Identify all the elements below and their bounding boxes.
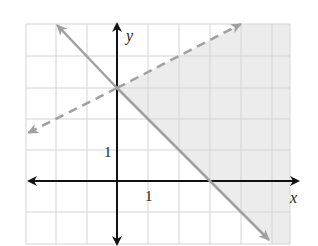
y-tick-label: 1 <box>104 144 112 160</box>
x-tick-label: 1 <box>145 188 153 204</box>
x-axis-label: x <box>289 189 297 206</box>
inequality-graph: y x 1 1 <box>0 0 318 246</box>
dashed-boundary-line <box>28 88 117 133</box>
y-axis-label: y <box>124 27 134 45</box>
shaded-region <box>117 24 290 244</box>
